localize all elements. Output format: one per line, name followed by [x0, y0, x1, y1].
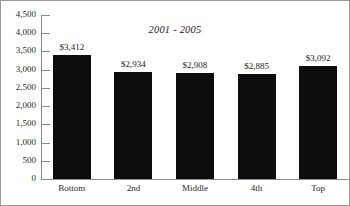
- y-axis-tick-label: 0: [32, 173, 37, 183]
- y-axis-tick-label: 1,500: [16, 118, 36, 128]
- bar-group: $3,412Bottom: [41, 15, 103, 179]
- y-axis-tick-label: 4,500: [16, 9, 36, 19]
- y-axis-tick-label: 3,000: [16, 64, 36, 74]
- x-axis-category-label: 4th: [251, 183, 263, 193]
- x-axis-category-label: Bottom: [58, 183, 85, 193]
- bar-value-label: $2,908: [183, 60, 208, 70]
- bar-group: $3,092Top: [287, 15, 349, 179]
- bar-value-label: $3,412: [59, 42, 84, 52]
- y-axis-tick-label: 4,000: [16, 27, 36, 37]
- bar-group: $2,9342nd: [103, 15, 165, 179]
- bar-value-label: $3,092: [306, 53, 331, 63]
- bar-chart-figure: 2001 - 2005 05001,0001,5002,0002,5003,00…: [0, 0, 350, 206]
- bar-group: $2,8854th: [226, 15, 288, 179]
- bar[interactable]: [114, 72, 152, 179]
- plot-area: $3,412Bottom$2,9342nd$2,908Middle$2,8854…: [41, 15, 349, 179]
- bar[interactable]: [299, 66, 337, 179]
- bar-value-label: $2,885: [244, 61, 269, 71]
- x-axis-line: [41, 179, 349, 180]
- bar[interactable]: [238, 74, 276, 179]
- y-axis-tick-label: 2,000: [16, 100, 36, 110]
- bar[interactable]: [176, 73, 214, 179]
- y-axis-tick-label: 1,000: [16, 137, 36, 147]
- x-axis-category-label: 2nd: [127, 183, 141, 193]
- x-axis-category-label: Top: [311, 183, 325, 193]
- x-axis-category-label: Middle: [182, 183, 208, 193]
- bar[interactable]: [53, 55, 91, 179]
- y-axis-tick-label: 500: [23, 155, 37, 165]
- y-axis-tick-label: 2,500: [16, 82, 36, 92]
- y-axis-tick-label: 3,500: [16, 45, 36, 55]
- bar-value-label: $2,934: [121, 59, 146, 69]
- bar-group: $2,908Middle: [164, 15, 226, 179]
